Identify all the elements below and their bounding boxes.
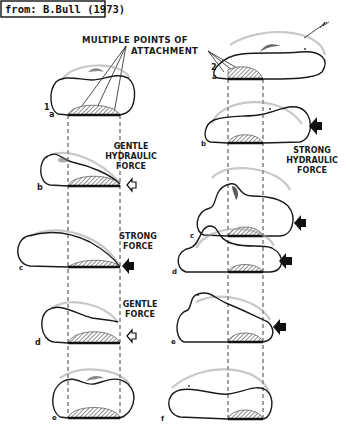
- cell-1b: b GENTLE HYDRAULIC FORCE: [37, 142, 157, 192]
- svg-text:HYDRAULIC: HYDRAULIC: [105, 152, 157, 161]
- cell-2a: 2 a: [211, 22, 329, 81]
- cell-attachment-diagram: from: B.Bull (1973) MULTIPLE POINTS OF A…: [0, 0, 346, 433]
- strong-hydraulic-force-label: STRONG HYDRAULIC FORCE: [286, 146, 338, 175]
- cell-2e: e: [171, 293, 286, 346]
- cell-2f: f: [161, 369, 272, 423]
- strong-force-label: STRONG FORCE: [119, 232, 156, 251]
- svg-text:STRONG: STRONG: [119, 232, 156, 241]
- svg-text:b: b: [201, 140, 206, 148]
- attachment-annotation: MULTIPLE POINTS OF ATTACHMENT: [76, 35, 242, 114]
- svg-text:b: b: [37, 183, 43, 192]
- strong-hydraulic-force-arrow: [309, 117, 322, 135]
- cell-1c: c STRONG FORCE: [18, 230, 157, 274]
- svg-text:STRONG: STRONG: [293, 146, 330, 155]
- svg-text:a: a: [212, 73, 217, 81]
- svg-text:f: f: [161, 415, 165, 423]
- svg-text:a: a: [49, 110, 54, 119]
- series-1: 1 a b GENTLE HYDRAULIC FORCE c: [18, 65, 158, 422]
- svg-text:FORCE: FORCE: [116, 162, 146, 171]
- svg-text:d: d: [35, 338, 41, 347]
- gentle-force-arrow-open: [127, 330, 136, 342]
- gentle-force-arrow-open: [127, 179, 136, 191]
- svg-text:FORCE: FORCE: [125, 310, 155, 319]
- svg-text:MULTIPLE POINTS OF: MULTIPLE POINTS OF: [82, 35, 188, 45]
- svg-text:GENTLE: GENTLE: [114, 142, 149, 151]
- cell-2b: b STRONG HYDRAULIC FORCE: [201, 102, 338, 175]
- svg-text:c: c: [19, 264, 23, 272]
- source-citation: from: B.Bull (1973): [1, 1, 125, 17]
- svg-text:HYDRAULIC: HYDRAULIC: [286, 156, 338, 165]
- cell-1d: d GENTLE FORCE: [35, 300, 157, 347]
- source-text: from: B.Bull (1973): [5, 3, 125, 15]
- svg-text:e: e: [171, 338, 176, 346]
- gentle-hydraulic-force-label: GENTLE HYDRAULIC FORCE: [105, 142, 157, 171]
- strong-force-arrow: [122, 258, 134, 274]
- svg-text:GENTLE: GENTLE: [123, 300, 158, 309]
- series-2: 2 a b STRONG HYDRAULIC FORCE c: [161, 22, 338, 423]
- svg-text:FORCE: FORCE: [297, 166, 327, 175]
- svg-text:d: d: [172, 268, 177, 276]
- svg-text:e: e: [52, 414, 57, 422]
- strong-force-arrow: [273, 319, 286, 335]
- svg-text:c: c: [190, 232, 194, 240]
- gentle-force-label: GENTLE FORCE: [123, 300, 158, 319]
- svg-text:FORCE: FORCE: [123, 242, 153, 251]
- strong-force-arrow: [294, 215, 306, 231]
- svg-text:2: 2: [211, 63, 217, 72]
- svg-text:ATTACHMENT: ATTACHMENT: [131, 46, 198, 56]
- cell-1e: e: [52, 370, 134, 422]
